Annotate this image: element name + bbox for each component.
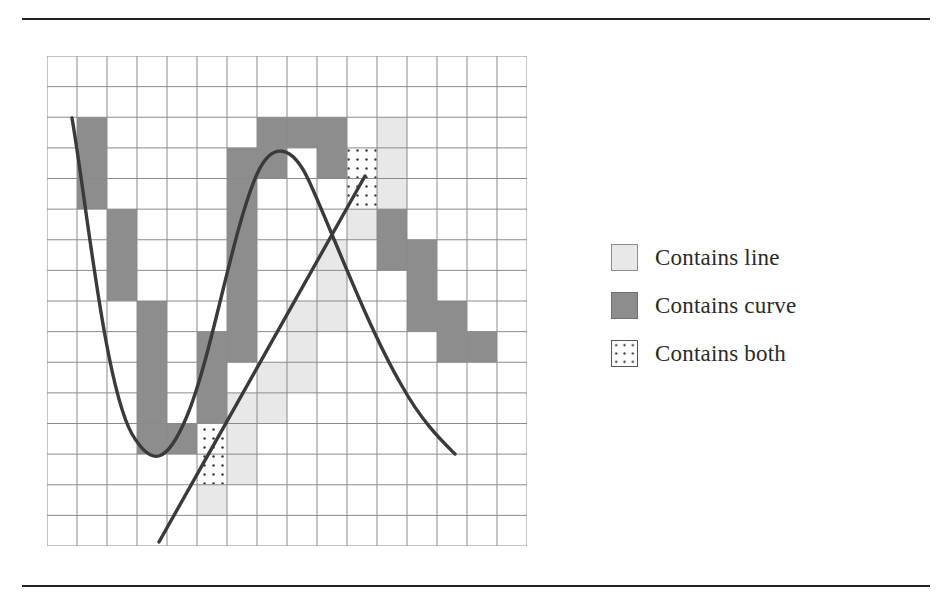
grid-cell-contains-curve: [197, 393, 227, 424]
grid-cell-contains-curve: [287, 117, 317, 148]
grid-cell-contains-curve: [407, 301, 437, 332]
bottom-horizontal-rule: [22, 585, 930, 587]
grid-cell-contains-curve: [407, 270, 437, 301]
grid-cell-contains-curve: [227, 301, 257, 332]
grid-lines-layer: [47, 56, 527, 546]
legend-item-contains-curve: Contains curve: [611, 281, 891, 329]
top-horizontal-rule: [22, 18, 930, 20]
grid-cell-contains-line: [377, 117, 407, 148]
legend-item-contains-line: Contains line: [611, 233, 891, 281]
grid-cell-contains-line: [317, 270, 347, 301]
legend-label-contains-both: Contains both: [655, 340, 786, 367]
raster-grid-svg: [47, 56, 527, 546]
grid-cell-contains-curve: [227, 332, 257, 363]
legend-swatch-curve-icon: [611, 292, 638, 319]
grid-cell-contains-curve: [227, 270, 257, 301]
legend: Contains line Contains curve Contains bo…: [611, 233, 891, 377]
grid-cell-contains-curve: [137, 393, 167, 424]
grid-cell-contains-both: [347, 148, 377, 179]
grid-cell-contains-curve: [437, 301, 467, 332]
grid-cell-contains-line: [377, 148, 407, 179]
grid-cell-contains-line: [287, 332, 317, 363]
grid-cell-contains-line: [197, 485, 227, 516]
legend-swatch-line-icon: [611, 244, 638, 271]
grid-cell-contains-curve: [137, 301, 167, 332]
grid-cell-contains-line: [347, 209, 377, 240]
figure-container: Contains line Contains curve Contains bo…: [0, 0, 945, 598]
grid-cell-contains-line: [377, 179, 407, 210]
grid-cell-contains-curve: [107, 209, 137, 240]
legend-swatch-both-icon: [611, 340, 638, 367]
grid-cell-contains-curve: [137, 362, 167, 393]
grid-cell-contains-curve: [437, 332, 467, 363]
grid-cell-contains-curve: [107, 240, 137, 271]
line-stroke: [159, 176, 365, 542]
grid-cell-contains-line: [227, 454, 257, 485]
grid-cell-contains-curve: [467, 332, 497, 363]
grid-cell-contains-curve: [317, 117, 347, 148]
legend-label-contains-curve: Contains curve: [655, 292, 796, 319]
grid-cell-contains-curve: [317, 148, 347, 179]
grid-cell-contains-curve: [227, 148, 257, 179]
grid-cell-contains-curve: [107, 270, 137, 301]
grid-cell-contains-line: [257, 362, 287, 393]
grid-cell-contains-curve: [257, 117, 287, 148]
grid-cell-contains-line: [227, 424, 257, 455]
grid-cell-contains-curve: [377, 209, 407, 240]
grid-cell-contains-curve: [137, 332, 167, 363]
legend-item-contains-both: Contains both: [611, 329, 891, 377]
dotted-fill-icon: [612, 341, 637, 366]
grid-cell-contains-curve: [377, 240, 407, 271]
grid-cell-contains-line: [287, 362, 317, 393]
grid-cell-contains-line: [257, 393, 287, 424]
grid-cell-contains-curve: [407, 240, 437, 271]
grid-cell-contains-line: [317, 301, 347, 332]
grid-cell-contains-curve: [77, 117, 107, 148]
legend-label-contains-line: Contains line: [655, 244, 780, 271]
raster-grid-panel: [47, 56, 527, 546]
